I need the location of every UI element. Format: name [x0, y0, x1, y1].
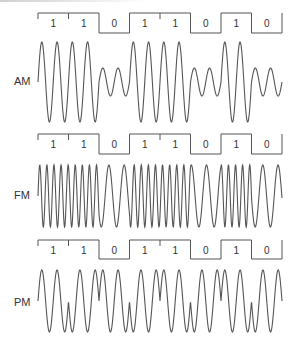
am-bit-label: 0: [111, 18, 117, 29]
fm-bit-label: 0: [264, 139, 270, 150]
pm-label: PM: [14, 296, 31, 308]
am-bit-label: 1: [233, 18, 239, 29]
am-bit-label: 1: [50, 18, 56, 29]
fm-bit-header: [38, 134, 282, 154]
pm-bit-label: 1: [142, 245, 148, 256]
pm-bit-label: 0: [264, 245, 270, 256]
pm-bit-label: 0: [203, 245, 209, 256]
fm-bit-label: 0: [203, 139, 209, 150]
fm-bit-label: 1: [142, 139, 148, 150]
fm-waveform: [38, 165, 282, 227]
modulation-diagram: 110110101101101011011010: [0, 0, 296, 364]
am-bit-label: 0: [264, 18, 270, 29]
am-bit-label: 1: [142, 18, 148, 29]
pm-bit-label: 1: [81, 245, 87, 256]
fm-label: FM: [14, 189, 30, 201]
am-bit-header: [38, 13, 282, 33]
waveforms: [38, 42, 282, 332]
fm-bit-label: 0: [111, 139, 117, 150]
pm-bit-header: [38, 240, 282, 259]
fm-bit-label: 1: [50, 139, 56, 150]
am-bit-label: 0: [203, 18, 209, 29]
pm-bit-label: 1: [233, 245, 239, 256]
am-label: AM: [14, 75, 31, 87]
fm-bit-label: 1: [233, 139, 239, 150]
am-bit-label: 1: [172, 18, 178, 29]
pm-bit-label: 0: [111, 245, 117, 256]
am-bit-label: 1: [81, 18, 87, 29]
pm-bit-label: 1: [172, 245, 178, 256]
am-waveform: [38, 42, 282, 122]
fm-bit-label: 1: [81, 139, 87, 150]
fm-bit-label: 1: [172, 139, 178, 150]
pm-bit-label: 1: [50, 245, 56, 256]
pm-waveform: [38, 270, 282, 332]
